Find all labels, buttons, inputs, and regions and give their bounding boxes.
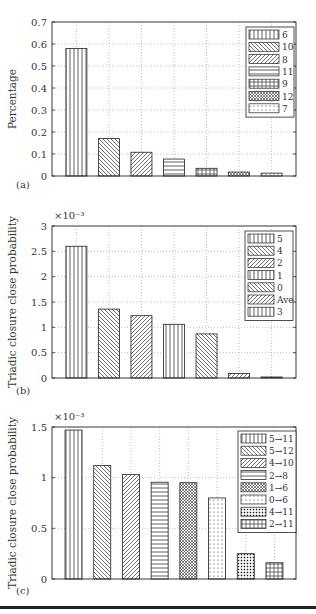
legend-swatch xyxy=(241,507,266,516)
legend-label: 0→6 xyxy=(269,495,288,505)
y-tick-label: 2 xyxy=(41,271,47,282)
legend-swatch xyxy=(248,283,274,292)
legend-swatch xyxy=(249,42,279,51)
y-tick-label: 0 xyxy=(41,574,47,585)
legend-label: 12 xyxy=(282,92,293,102)
y-tick-label: 0.6 xyxy=(31,39,47,50)
legend-label: 0 xyxy=(277,283,283,293)
legend-label: 8 xyxy=(282,55,288,65)
legend-swatch xyxy=(249,67,279,76)
y-tick-label: 0 xyxy=(41,373,47,384)
y-tick-label: 0.4 xyxy=(31,83,47,94)
legend-label: 1 xyxy=(277,271,283,281)
legend-label: 1→6 xyxy=(269,483,288,493)
y-tick-label: 0.7 xyxy=(31,17,47,28)
bar-5-to-12 xyxy=(94,466,111,579)
panel-label: (c) xyxy=(16,585,30,596)
y-tick-label: 0.5 xyxy=(31,347,47,358)
legend-swatch xyxy=(248,307,274,316)
legend-swatch xyxy=(248,246,274,255)
legend-swatch xyxy=(248,258,274,267)
bar-12 xyxy=(229,172,250,176)
legend-swatch xyxy=(241,458,266,467)
y-tick-label: 2.5 xyxy=(31,246,47,257)
bar-4-to-11 xyxy=(237,554,254,579)
legend-label: 5→12 xyxy=(269,446,294,456)
bar-8 xyxy=(131,152,152,176)
legend-label: 9 xyxy=(282,79,288,89)
legend-swatch xyxy=(249,30,279,39)
legend-swatch xyxy=(241,471,266,480)
panel-label: (a) xyxy=(16,179,30,190)
y-tick-label: 0.5 xyxy=(31,523,47,534)
bar-4-to-10 xyxy=(122,475,139,579)
legend-swatch xyxy=(241,519,266,528)
legend-label: 2 xyxy=(277,258,283,268)
legend-label: 4 xyxy=(277,246,283,256)
legend-label: 2→11 xyxy=(269,519,294,529)
legend-swatch xyxy=(249,55,279,64)
bar-0-to-6 xyxy=(209,498,226,579)
bottom-rule xyxy=(0,606,316,609)
y-tick-label: 1 xyxy=(41,322,47,333)
y-tick-label: 1.5 xyxy=(31,297,47,308)
legend-swatch xyxy=(248,271,274,280)
bar-6 xyxy=(66,48,87,176)
legend-label: 5 xyxy=(277,234,283,244)
legend-swatch xyxy=(241,483,266,492)
legend-label: 4→11 xyxy=(269,507,294,517)
legend-label: 6 xyxy=(282,30,288,40)
legend-swatch xyxy=(241,495,266,504)
legend-label: 11 xyxy=(282,67,293,77)
legend-swatch xyxy=(241,446,266,455)
legend-label: 10 xyxy=(282,42,294,52)
legend-label: 2→8 xyxy=(269,471,288,481)
y-tick-label: 3 xyxy=(41,221,47,232)
legend-swatch xyxy=(249,92,279,101)
y-tick-label: 0 xyxy=(41,171,47,182)
legend-swatch xyxy=(248,234,274,243)
y-tick-label: 0.5 xyxy=(31,61,47,72)
legend-label: 3 xyxy=(277,307,283,317)
y-tick-label: 0.3 xyxy=(31,105,47,116)
bar-9 xyxy=(196,168,217,176)
bar-1 xyxy=(164,324,185,378)
bar-0 xyxy=(196,334,217,378)
y-axis-label: Triadic closure close probability xyxy=(6,216,18,388)
legend-label: 7 xyxy=(282,104,288,114)
y-tick-label: 0.2 xyxy=(31,127,47,138)
y-tick-label: 0.1 xyxy=(31,149,47,160)
legend-swatch xyxy=(249,79,279,88)
bar-2-to-11 xyxy=(266,563,283,579)
bar-2-to-8 xyxy=(151,482,168,579)
bar-1-to-6 xyxy=(180,483,197,579)
bar-11 xyxy=(164,159,185,176)
bar-10 xyxy=(98,139,119,176)
y-tick-label: 1 xyxy=(41,472,47,483)
chart-a: 00.10.20.30.40.50.60.7Percentage(a)61081… xyxy=(0,0,316,200)
bar-5-to-11 xyxy=(65,430,82,579)
y-axis-label: Percentage xyxy=(6,69,18,129)
bar-4 xyxy=(98,309,119,378)
chart-b: 00.511.522.53Triadic closure close proba… xyxy=(0,197,316,397)
legend-swatch xyxy=(249,104,279,113)
y-multiplier: ×10⁻³ xyxy=(54,210,84,221)
legend-label: 5→11 xyxy=(269,434,294,444)
y-axis-label: Triadic closure close probability xyxy=(6,417,18,589)
bar-2 xyxy=(131,316,152,378)
y-multiplier: ×10⁻³ xyxy=(54,411,84,422)
legend-label: Ave xyxy=(276,295,294,305)
legend-swatch xyxy=(248,295,274,304)
chart-c: 00.511.5Triadic closure close probabilit… xyxy=(0,394,316,608)
bar-5 xyxy=(66,246,87,378)
legend-swatch xyxy=(241,434,266,443)
y-tick-label: 1.5 xyxy=(31,422,47,433)
bar-Ave xyxy=(229,373,250,378)
legend-label: 4→10 xyxy=(269,458,294,468)
